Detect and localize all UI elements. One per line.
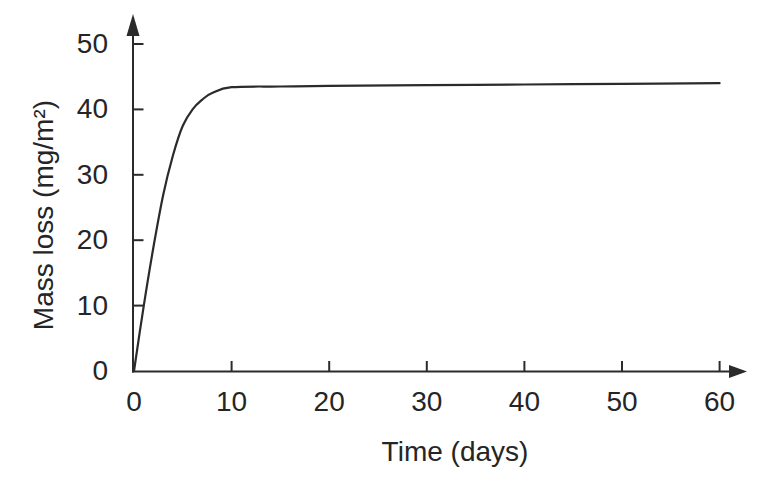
- x-tick-label: 50: [590, 387, 654, 417]
- x-tick-label: 0: [102, 387, 166, 417]
- x-tick-label: 40: [492, 387, 556, 417]
- y-tick-label: 40: [58, 94, 108, 124]
- y-tick-label: 0: [58, 356, 108, 386]
- x-tick-label: 10: [200, 387, 264, 417]
- y-tick-label: 30: [58, 160, 108, 190]
- x-axis-label: Time (days): [305, 436, 605, 468]
- mass-loss-curve: [134, 83, 720, 371]
- y-tick-label: 10: [58, 291, 108, 321]
- x-tick-label: 30: [395, 387, 459, 417]
- y-tick-label: 20: [58, 225, 108, 255]
- x-tick-label: 60: [688, 387, 752, 417]
- x-axis-arrowhead-icon: [729, 365, 747, 378]
- y-axis-arrowhead-icon: [127, 14, 140, 36]
- x-tick-label: 20: [297, 387, 361, 417]
- line-chart-figure: Mass loss (mg/m²) Time (days) 0102030405…: [0, 0, 767, 487]
- y-tick-label: 50: [58, 29, 108, 59]
